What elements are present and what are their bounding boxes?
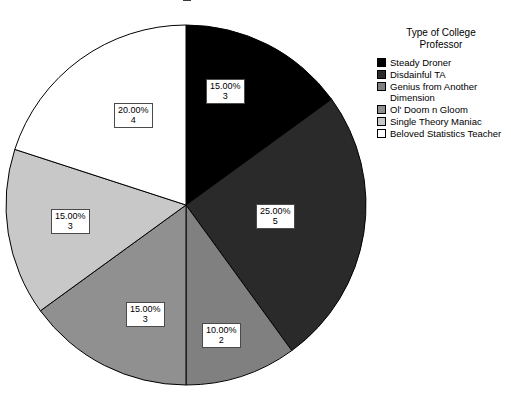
legend-item-label: Ol' Doom n Gloom — [390, 104, 468, 115]
legend-item-ol-doom-n-gloom[interactable]: Ol' Doom n Gloom — [377, 104, 509, 115]
slice-count: 3 — [55, 221, 86, 231]
slice-percent: 25.00% — [260, 206, 291, 216]
pie-slice-group — [6, 25, 366, 385]
legend-item-label: Single Theory Maniac — [390, 116, 482, 127]
legend-item-label-line1: Genius from Another — [390, 81, 477, 92]
legend-item-single-theory-maniac[interactable]: Single Theory Maniac — [377, 116, 509, 127]
slice-percent: 20.00% — [118, 105, 149, 115]
legend-swatch-icon — [377, 70, 386, 79]
slice-count: 5 — [260, 216, 291, 226]
legend-title: Type of College Professor — [377, 27, 509, 51]
legend-swatch-icon — [377, 58, 386, 67]
legend-item-label: Steady Droner — [390, 57, 451, 68]
slice-count: 3 — [130, 314, 161, 324]
legend-swatch-icon — [377, 82, 386, 91]
slice-label-ol-doom-n-gloom: 15.00% 3 — [126, 302, 165, 327]
legend-item-label: Disdainful TA — [390, 69, 446, 80]
legend-item-genius-from-another-dimension[interactable]: Genius from Another Dimension — [377, 81, 509, 103]
slice-count: 4 — [118, 115, 149, 125]
legend-swatch-icon — [377, 117, 386, 126]
legend-title-line1: Type of College — [406, 27, 476, 38]
slice-label-disdainful-ta: 25.00% 5 — [256, 204, 295, 229]
slice-label-beloved-statistics-teacher: 20.00% 4 — [114, 103, 153, 128]
slice-percent: 15.00% — [55, 211, 86, 221]
slice-count: 3 — [210, 91, 241, 101]
slice-percent: 15.00% — [210, 81, 241, 91]
pie-chart-page: . 15.00% 3 25.00% 5 10.00% 2 15.00% 3 15… — [0, 0, 511, 396]
legend-title-line2: Professor — [377, 39, 505, 51]
slice-count: 2 — [206, 335, 237, 345]
legend-item-label: Beloved Statistics Teacher — [390, 128, 501, 139]
slice-percent: 10.00% — [206, 325, 237, 335]
legend-item-beloved-statistics-teacher[interactable]: Beloved Statistics Teacher — [377, 128, 509, 139]
slice-label-steady-droner: 15.00% 3 — [206, 79, 245, 104]
legend-item-label-line2: Dimension — [390, 92, 435, 103]
legend-item-steady-droner[interactable]: Steady Droner — [377, 57, 509, 68]
legend-item-label: Genius from Another Dimension — [390, 81, 477, 103]
legend-swatch-icon — [377, 129, 386, 138]
slice-label-single-theory-maniac: 15.00% 3 — [51, 209, 90, 234]
legend-swatch-icon — [377, 105, 386, 114]
chart-legend: Type of College Professor Steady Droner … — [377, 27, 509, 140]
pie-chart-svg — [0, 0, 375, 396]
legend-item-disdainful-ta[interactable]: Disdainful TA — [377, 69, 509, 80]
slice-label-genius-from-another-dimension: 10.00% 2 — [202, 323, 241, 348]
slice-percent: 15.00% — [130, 304, 161, 314]
pie-chart-plot-area: 15.00% 3 25.00% 5 10.00% 2 15.00% 3 15.0… — [0, 0, 375, 396]
